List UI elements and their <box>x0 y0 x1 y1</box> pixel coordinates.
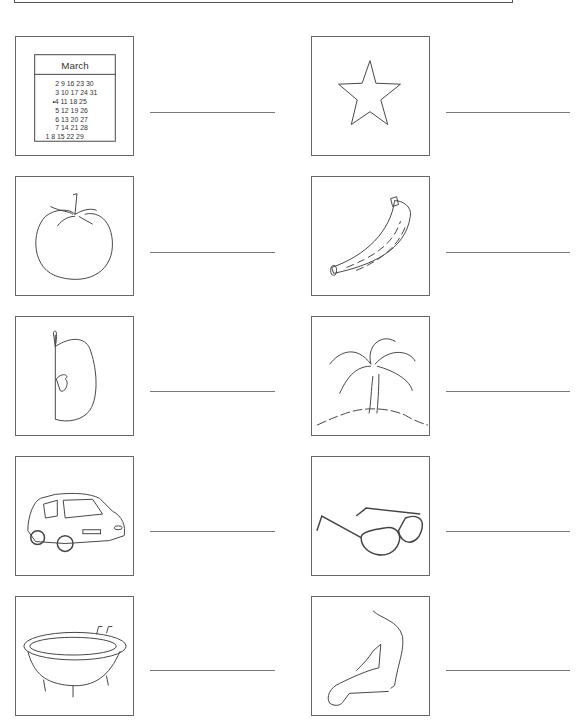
svg-text:7 14 21 28: 7 14 21 28 <box>55 124 88 131</box>
picture-car <box>15 456 134 576</box>
apple-half-icon <box>16 317 133 435</box>
answer-line-star[interactable] <box>446 112 570 113</box>
banana-icon <box>312 177 429 295</box>
picture-apple-half <box>15 316 134 436</box>
svg-text:1 8 15 22 29: 1 8 15 22 29 <box>45 133 83 140</box>
picture-arm <box>311 596 430 716</box>
svg-text:March: March <box>61 60 88 71</box>
answer-line-palm-tree[interactable] <box>446 391 570 392</box>
svg-text:6 13 20 27: 6 13 20 27 <box>55 116 88 123</box>
calendar-icon: March 2 9 16 23 30 3 10 17 24 31 •4 11 1… <box>16 37 133 155</box>
tomato-icon <box>16 177 133 295</box>
palm-tree-icon <box>312 317 429 435</box>
answer-line-banana[interactable] <box>446 252 570 253</box>
picture-star <box>311 36 430 156</box>
glasses-icon <box>312 457 429 575</box>
svg-text:•4 11 18 25: •4 11 18 25 <box>52 98 87 105</box>
answer-line-arm[interactable] <box>446 670 570 671</box>
car-icon <box>16 457 133 575</box>
answer-line-tomato[interactable] <box>150 252 275 253</box>
star-icon <box>312 37 429 155</box>
picture-glasses <box>311 456 430 576</box>
header-box <box>14 0 513 3</box>
picture-tomato <box>15 176 134 296</box>
picture-bathtub <box>15 596 134 716</box>
answer-line-car[interactable] <box>150 531 275 532</box>
svg-text:5 12 19 26: 5 12 19 26 <box>55 107 88 114</box>
arm-icon <box>312 597 429 715</box>
picture-calendar: March 2 9 16 23 30 3 10 17 24 31 •4 11 1… <box>15 36 134 156</box>
answer-line-apple-half[interactable] <box>150 391 275 392</box>
svg-text:2 9 16 23 30: 2 9 16 23 30 <box>55 80 93 87</box>
answer-line-calendar[interactable] <box>150 112 275 113</box>
answer-line-bathtub[interactable] <box>150 670 275 671</box>
picture-banana <box>311 176 430 296</box>
picture-palm-tree <box>311 316 430 436</box>
svg-text:3 10 17 24 31: 3 10 17 24 31 <box>55 89 97 96</box>
bathtub-icon <box>16 597 133 715</box>
answer-line-glasses[interactable] <box>446 531 570 532</box>
